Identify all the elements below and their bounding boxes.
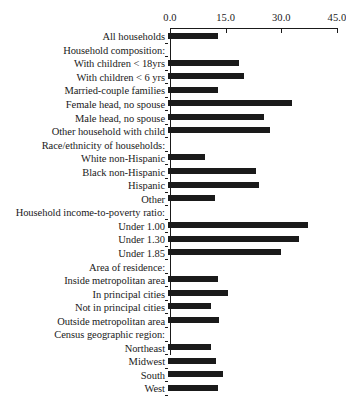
bar <box>168 358 216 364</box>
bar-row: Under 1.30 <box>0 233 343 247</box>
bar <box>168 222 308 228</box>
bar-row-label: Household income-to-poverty ratio: <box>0 207 168 218</box>
x-tick-label: 45.0 <box>328 12 346 24</box>
bar-row-label: Midwest <box>0 356 168 367</box>
bar-track <box>168 382 340 396</box>
bar-row-label: Area of residence: <box>0 262 168 273</box>
bar-track <box>168 193 340 207</box>
bar-row: Under 1.85 <box>0 247 343 261</box>
bar-row: Not in principal cities <box>0 301 343 315</box>
bar-row-label: Inside metropolitan area <box>0 275 168 286</box>
bar-row-label: Female head, no spouse <box>0 99 168 110</box>
bar-row: With children < 6 yrs <box>0 71 343 85</box>
bar <box>168 303 211 309</box>
bar-row-label: Under 1.85 <box>0 248 168 259</box>
bar-row-label: White non-Hispanic <box>0 153 168 164</box>
bar-track <box>168 165 340 179</box>
x-axis: 0.015.030.045.0 <box>0 0 343 33</box>
bar-row: South <box>0 369 343 383</box>
bar-row-label: Hispanic <box>0 180 168 191</box>
bar-row: Black non-Hispanic <box>0 165 343 179</box>
bar <box>168 195 215 201</box>
bar-row-label: Other <box>0 194 168 205</box>
section-header-row: Race/ethnicity of households: <box>0 138 343 152</box>
bar-row-label: Outside metropolitan area <box>0 316 168 327</box>
bar-row-label: West <box>0 383 168 394</box>
bar-track <box>168 57 340 71</box>
bar-row-label: With children < 6 yrs <box>0 72 168 83</box>
bar-track <box>168 30 340 44</box>
bar-row: Other <box>0 193 343 207</box>
bar-row: In principal cities <box>0 287 343 301</box>
bar-rows: All householdsHousehold composition:With… <box>0 30 343 396</box>
bar-track <box>168 125 340 139</box>
bar-row-label: Under 1.00 <box>0 221 168 232</box>
bar-row: With children < 18yrs <box>0 57 343 71</box>
bar <box>168 168 256 174</box>
bar-track <box>168 206 340 220</box>
bar-track <box>168 233 340 247</box>
bar-track <box>168 328 340 342</box>
bar-track <box>168 152 340 166</box>
bar-track <box>168 369 340 383</box>
section-header-row: Household income-to-poverty ratio: <box>0 206 343 220</box>
bar-row-label: All households <box>0 31 168 42</box>
bar-row: Under 1.00 <box>0 220 343 234</box>
bar-row: West <box>0 382 343 396</box>
bar <box>168 249 281 255</box>
bar-row: Inside metropolitan area <box>0 274 343 288</box>
bar-row: Married-couple families <box>0 84 343 98</box>
bar-track <box>168 260 340 274</box>
bar-row: Midwest <box>0 355 343 369</box>
bar <box>168 371 223 377</box>
bar-row-label: Under 1.30 <box>0 234 168 245</box>
bar <box>168 182 259 188</box>
bar <box>168 114 264 120</box>
bar <box>168 100 292 106</box>
bar-row: All households <box>0 30 343 44</box>
bar <box>168 385 218 391</box>
bar-row-label: Black non-Hispanic <box>0 167 168 178</box>
bar-row: Female head, no spouse <box>0 98 343 112</box>
bar-track <box>168 220 340 234</box>
bar-track <box>168 314 340 328</box>
bar-row: Male head, no spouse <box>0 111 343 125</box>
bar-row-label: Census geographic region: <box>0 329 168 340</box>
bar <box>168 317 219 323</box>
bar-row-label: Northeast <box>0 343 168 354</box>
bar-track <box>168 84 340 98</box>
bar-track <box>168 342 340 356</box>
bar-row: Northeast <box>0 342 343 356</box>
bar <box>168 127 270 133</box>
bar-track <box>168 44 340 58</box>
bar-row-label: Not in principal cities <box>0 302 168 313</box>
bar-track <box>168 71 340 85</box>
bar-row: White non-Hispanic <box>0 152 343 166</box>
bar-track <box>168 355 340 369</box>
bar-row-label: Race/ethnicity of households: <box>0 140 168 151</box>
bar-row-label: In principal cities <box>0 289 168 300</box>
bar <box>168 344 211 350</box>
bar-row-label: Married-couple families <box>0 85 168 96</box>
bar-track <box>168 111 340 125</box>
bar-row-label: Other household with child <box>0 126 168 137</box>
x-tick-label: 0.0 <box>163 12 176 24</box>
bar-track <box>168 138 340 152</box>
bar-row-label: South <box>0 370 168 381</box>
bar-row: Hispanic <box>0 179 343 193</box>
x-axis-line <box>170 28 337 29</box>
bar <box>168 87 218 93</box>
bar <box>168 33 218 39</box>
section-header-row: Area of residence: <box>0 260 343 274</box>
bar-track <box>168 287 340 301</box>
bar <box>168 290 228 296</box>
bar-row: Outside metropolitan area <box>0 314 343 328</box>
bar-track <box>168 98 340 112</box>
bar <box>168 236 299 242</box>
bar-track <box>168 179 340 193</box>
bar-row-label: Male head, no spouse <box>0 113 168 124</box>
bar-track <box>168 247 340 261</box>
bar <box>168 60 239 66</box>
bar <box>168 73 244 79</box>
